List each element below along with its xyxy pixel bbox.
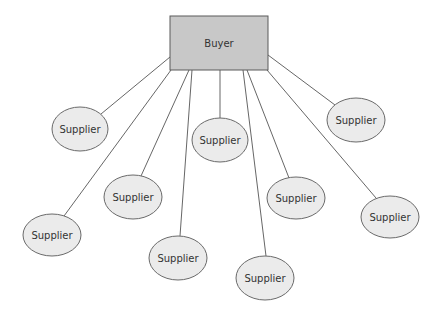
supplier-label: Supplier <box>31 230 73 241</box>
buyer-label: Buyer <box>204 38 234 49</box>
supplier-node: Supplier <box>192 118 248 162</box>
connector-line-s9 <box>243 70 266 256</box>
supplier-node: Supplier <box>267 177 325 219</box>
supplier-node: Supplier <box>23 214 81 256</box>
supplier-label: Supplier <box>157 253 199 264</box>
supplier-label: Supplier <box>275 193 317 204</box>
supplier-node: Supplier <box>361 196 419 238</box>
connector-line-s4 <box>141 70 189 176</box>
supplier-node: Supplier <box>327 98 385 142</box>
connector-line-s8 <box>180 70 192 236</box>
connector-line-s3 <box>268 55 335 105</box>
connector-line-s5 <box>247 70 289 178</box>
supplier-nodes: SupplierSupplierSupplierSupplierSupplier… <box>23 98 419 300</box>
supplier-node: Supplier <box>104 175 162 219</box>
supplier-label: Supplier <box>199 135 241 146</box>
supplier-node: Supplier <box>236 256 294 300</box>
supplier-node: Supplier <box>52 107 108 151</box>
supplier-label: Supplier <box>112 192 154 203</box>
supplier-node: Supplier <box>149 236 207 280</box>
buyer-supplier-diagram: Buyer SupplierSupplierSupplierSupplierSu… <box>0 0 441 315</box>
buyer-node: Buyer <box>170 16 268 70</box>
supplier-label: Supplier <box>244 273 286 284</box>
supplier-label: Supplier <box>369 212 411 223</box>
supplier-label: Supplier <box>335 115 377 126</box>
supplier-label: Supplier <box>59 124 101 135</box>
